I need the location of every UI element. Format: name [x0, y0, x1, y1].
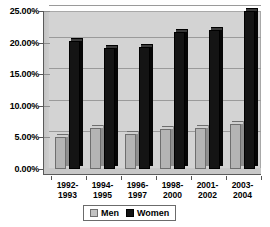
- x-tick-label-line2: 2002: [197, 190, 219, 200]
- x-tick-label-line2: 1993: [57, 190, 79, 200]
- bar-face: [104, 48, 115, 169]
- x-tick-label: 1994-1995: [92, 180, 114, 200]
- x-tick-label-line2: 2000: [162, 190, 184, 200]
- legend-swatch-women: [126, 209, 134, 217]
- x-tick-mark: [261, 176, 262, 180]
- bar-side: [185, 29, 188, 166]
- legend-label-men: Men: [101, 208, 119, 218]
- bar-side: [115, 45, 118, 166]
- x-tick-label-line1: 1998-: [162, 180, 184, 190]
- y-tick-label: 25.00%: [10, 6, 39, 16]
- y-tick-label: 10.00%: [10, 101, 39, 111]
- bar-women-1998-2000: [174, 32, 185, 169]
- x-tick-mark: [156, 176, 157, 180]
- bar-women-2001-2002: [209, 30, 220, 169]
- bars-layer: [43, 11, 261, 175]
- bar-side: [80, 38, 83, 166]
- bar-face: [174, 32, 185, 169]
- bar-face: [69, 41, 80, 169]
- x-axis: 1992-19931994-19951996-19971998-20002001…: [43, 176, 261, 204]
- x-tick-label: 1998-2000: [162, 180, 184, 200]
- x-tick-label: 2003-2004: [232, 180, 254, 200]
- bar-men-2003-2004: [230, 124, 241, 170]
- x-tick-label: 2001-2002: [197, 180, 219, 200]
- bar-side: [150, 44, 153, 166]
- x-tick-label-line1: 1996-: [127, 180, 149, 190]
- gridline: [49, 5, 261, 6]
- y-tick-label: 5.00%: [14, 132, 39, 142]
- bar-men-1998-2000: [160, 129, 171, 169]
- bar-chart: 0.00%5.00%10.00%15.00%20.00%25.00% 1992-…: [0, 0, 270, 227]
- bar-men-1996-1997: [125, 134, 136, 169]
- x-tick-mark: [86, 176, 87, 180]
- legend-item-men: Men: [90, 208, 119, 218]
- bar-men-2001-2002: [195, 128, 206, 169]
- x-tick-mark: [191, 176, 192, 180]
- x-tick-mark: [121, 176, 122, 180]
- bar-women-1992-1993: [69, 41, 80, 169]
- bar-side: [255, 8, 258, 166]
- x-tick-mark: [51, 176, 52, 180]
- bar-face: [55, 137, 66, 169]
- x-tick-label-line2: 1997: [127, 190, 149, 200]
- bar-men-1992-1993: [55, 137, 66, 169]
- x-tick-label-line1: 1992-: [57, 180, 79, 190]
- y-axis-line: [43, 11, 44, 175]
- x-tick-label-line2: 2004: [232, 190, 254, 200]
- bar-face: [125, 134, 136, 169]
- bar-men-1994-1995: [90, 128, 101, 169]
- bar-women-1996-1997: [139, 47, 150, 169]
- x-tick-label-line1: 2001-: [197, 180, 219, 190]
- bar-face: [195, 128, 206, 169]
- y-tick-label: 15.00%: [10, 69, 39, 79]
- bar-face: [244, 11, 255, 169]
- bar-face: [209, 30, 220, 169]
- legend-item-women: Women: [126, 208, 169, 218]
- y-axis: 0.00%5.00%10.00%15.00%20.00%25.00%: [0, 0, 42, 182]
- x-tick-mark: [226, 176, 227, 180]
- x-tick-label: 1992-1993: [57, 180, 79, 200]
- bar-women-2003-2004: [244, 11, 255, 169]
- plot-area: [43, 11, 261, 175]
- bar-women-1994-1995: [104, 48, 115, 169]
- x-tick-label-line2: 1995: [92, 190, 114, 200]
- bar-side: [220, 27, 223, 166]
- x-tick-label: 1996-1997: [127, 180, 149, 200]
- legend-label-women: Women: [137, 208, 169, 218]
- bar-face: [90, 128, 101, 169]
- bar-face: [230, 124, 241, 170]
- bar-face: [160, 129, 171, 169]
- x-tick-label-line1: 2003-: [232, 180, 254, 190]
- x-axis-line: [43, 174, 261, 175]
- y-tick-label: 0.00%: [14, 164, 39, 174]
- x-tick-label-line1: 1994-: [92, 180, 114, 190]
- y-tick-label: 20.00%: [10, 38, 39, 48]
- bar-face: [139, 47, 150, 169]
- legend-swatch-men: [90, 209, 98, 217]
- chart-legend: MenWomen: [83, 205, 176, 221]
